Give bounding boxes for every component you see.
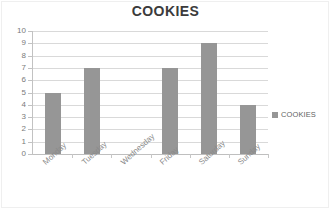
gridline-6 xyxy=(33,80,268,81)
bar-friday xyxy=(162,68,178,154)
y-tick-mark-9 xyxy=(28,43,32,44)
y-tick-label-6: 6 xyxy=(2,76,26,84)
legend-color-swatch-icon xyxy=(272,112,278,118)
y-tick-mark-5 xyxy=(28,93,32,94)
bar-tuesday xyxy=(84,68,100,154)
y-tick-mark-7 xyxy=(28,68,32,69)
x-tick-mark-4 xyxy=(229,154,230,158)
y-tick-mark-4 xyxy=(28,105,32,106)
y-tick-label-9: 9 xyxy=(2,39,26,47)
gridline-9 xyxy=(33,43,268,44)
y-tick-mark-2 xyxy=(28,129,32,130)
bar-saturday xyxy=(201,43,217,154)
y-tick-label-1: 1 xyxy=(2,138,26,146)
y-tick-mark-8 xyxy=(28,56,32,57)
y-tick-label-3: 3 xyxy=(2,113,26,121)
y-tick-label-2: 2 xyxy=(2,125,26,133)
gridline-8 xyxy=(33,56,268,57)
gridline-2 xyxy=(33,129,268,130)
chart-title: COOKIES xyxy=(0,3,331,19)
x-tick-mark-1 xyxy=(111,154,112,158)
legend-entry-label: COOKIES xyxy=(281,110,316,119)
gridline-4 xyxy=(33,105,268,106)
y-tick-mark-0 xyxy=(28,154,32,155)
x-tick-mark-3 xyxy=(190,154,191,158)
gridline-5 xyxy=(33,93,268,94)
gridline-7 xyxy=(33,68,268,69)
y-tick-label-8: 8 xyxy=(2,52,26,60)
y-axis-tick-labels: 109876543210 xyxy=(0,0,26,210)
y-tick-label-5: 5 xyxy=(2,89,26,97)
x-tick-mark-0 xyxy=(72,154,73,158)
y-tick-mark-10 xyxy=(28,31,32,32)
y-tick-label-4: 4 xyxy=(2,101,26,109)
gridline-10 xyxy=(33,31,268,32)
y-tick-label-7: 7 xyxy=(2,64,26,72)
chart-legend: COOKIES xyxy=(272,110,316,119)
x-tick-mark-5 xyxy=(268,154,269,158)
x-tick-mark-2 xyxy=(151,154,152,158)
y-tick-mark-3 xyxy=(28,117,32,118)
y-tick-mark-6 xyxy=(28,80,32,81)
y-tick-label-10: 10 xyxy=(2,27,26,35)
y-tick-mark-1 xyxy=(28,142,32,143)
gridline-3 xyxy=(33,117,268,118)
cookies-bar-chart: COOKIES 109876543210 MondayTuesdayWednes… xyxy=(0,0,331,210)
y-tick-label-0: 0 xyxy=(2,150,26,158)
